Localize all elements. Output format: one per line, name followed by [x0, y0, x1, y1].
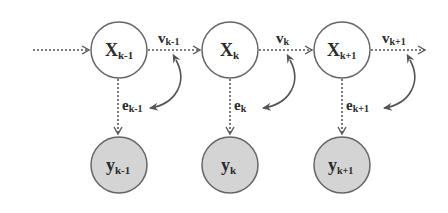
measurement-noise-label-km1: ek-1 [122, 97, 143, 114]
process-noise-label-kp1: vk+1 [382, 30, 406, 47]
state-node-km1: Xk-1 [91, 22, 147, 78]
observation-node-k: yk [202, 137, 258, 193]
correlation-arrow-km1 [150, 60, 181, 108]
correlation-arrow-k [263, 60, 295, 108]
measurement-noise-label-k: ek [234, 97, 247, 114]
observation-node-kp1: yk+1 [314, 137, 370, 193]
measurement-noise-label-kp1: ek+1 [346, 97, 369, 114]
state-space-diagram: Xk-1 Xk Xk+1 yk-1 yk yk+1 vk-1 vk vk+1 e… [0, 0, 448, 213]
observation-node-km1: yk-1 [91, 137, 147, 193]
state-node-k: Xk [202, 22, 258, 78]
state-node-kp1: Xk+1 [314, 22, 370, 78]
correlation-arrow-kp1 [384, 60, 415, 108]
process-noise-label-k: vk [276, 30, 290, 47]
process-noise-label-km1: vk-1 [158, 30, 179, 47]
